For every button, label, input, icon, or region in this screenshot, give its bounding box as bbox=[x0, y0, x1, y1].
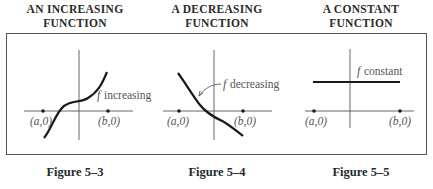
label-b-point: (b,0) bbox=[389, 115, 411, 128]
increasing-curve bbox=[44, 72, 107, 138]
graph-constant: f constant (a,0) (b,0) bbox=[305, 49, 414, 128]
point-a-marker bbox=[312, 109, 316, 113]
label-a-point: (a,0) bbox=[167, 115, 189, 128]
caption-figure-5-4: Figure 5–4 bbox=[142, 165, 292, 180]
point-a-marker bbox=[41, 109, 45, 113]
caption-figure-5-3: Figure 5–3 bbox=[0, 165, 150, 180]
f-label-decreasing: f bbox=[223, 77, 228, 91]
label-b-point: (b,0) bbox=[234, 115, 256, 128]
label-decreasing: decreasing bbox=[230, 78, 279, 91]
label-constant: constant bbox=[364, 65, 403, 77]
point-b-marker bbox=[241, 109, 245, 113]
point-b-marker bbox=[398, 109, 402, 113]
label-a-point: (a,0) bbox=[305, 115, 327, 128]
label-b-point: (b,0) bbox=[98, 115, 120, 128]
label-increasing: increasing bbox=[104, 89, 152, 102]
f-label-constant: f bbox=[357, 64, 362, 78]
graph-increasing: f increasing (a,0) (b,0) bbox=[24, 50, 152, 140]
caption-figure-5-5: Figure 5–5 bbox=[286, 165, 433, 180]
point-b-marker bbox=[106, 109, 110, 113]
figures-canvas: f increasing (a,0) (b,0) f decreasing (a… bbox=[0, 0, 433, 189]
f-label-increasing: f bbox=[97, 88, 102, 102]
label-a-point: (a,0) bbox=[30, 115, 52, 128]
label-pointer-arrow bbox=[199, 84, 221, 96]
point-a-marker bbox=[177, 109, 181, 113]
graph-decreasing: f decreasing (a,0) (b,0) bbox=[163, 50, 279, 140]
